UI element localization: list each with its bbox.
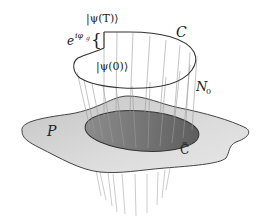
label-projected-curve: C̃ [180,142,189,157]
svg-text:iφ: iφ [75,31,84,40]
label-curve-C: C [176,24,187,40]
label-psi-T: |ψ(T)⟩ [86,12,119,26]
label-phase-factor: e iφ g { [67,30,102,50]
svg-text:e: e [67,34,74,48]
label-base-space-P: P [46,123,57,139]
label-bundle-N0: N 0 [195,79,211,96]
svg-text:0: 0 [206,87,211,96]
svg-text:g: g [86,34,90,42]
geometric-phase-diagram: |ψ(T)⟩ |ψ(0)⟩ e iφ g { C N 0 P C̃ [0,0,264,221]
fibers-below-plane [96,168,170,216]
label-psi-0: |ψ(0)⟩ [96,60,128,74]
brace-icon: { [91,30,102,50]
